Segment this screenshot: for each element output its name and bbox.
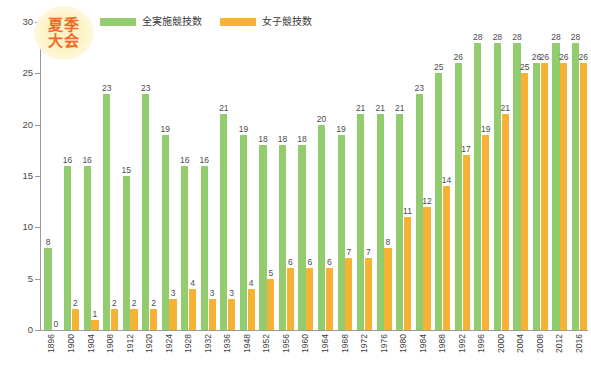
bar-women-events: 1 bbox=[91, 320, 98, 330]
bar-group: 213 bbox=[220, 20, 235, 330]
bar-all-events: 28 bbox=[572, 43, 579, 330]
bar-group: 193 bbox=[162, 20, 177, 330]
bar-value-label: 25 bbox=[520, 63, 529, 72]
y-tick-label: 20 bbox=[0, 120, 33, 130]
bar-women-events: 6 bbox=[306, 268, 313, 330]
bar-women-events: 11 bbox=[404, 217, 411, 330]
bar-all-events: 20 bbox=[318, 125, 325, 330]
summer-games-events-bar-chart: 051015202530 夏季 大会 全実施競技数 女子競技数 80162161… bbox=[0, 0, 591, 368]
bar-group: 185 bbox=[259, 20, 274, 330]
x-tick-label: 1996 bbox=[477, 334, 486, 353]
bar-women-events: 4 bbox=[248, 289, 255, 330]
bar-value-label: 15 bbox=[121, 166, 130, 175]
bar-women-events: 4 bbox=[189, 289, 196, 330]
x-tick-label: 2004 bbox=[516, 334, 525, 353]
x-tick-label: 1928 bbox=[184, 334, 193, 353]
bar-women-events: 6 bbox=[326, 268, 333, 330]
bar-value-label: 12 bbox=[422, 197, 431, 206]
bar-value-label: 14 bbox=[442, 176, 451, 185]
x-tick-label: 1920 bbox=[145, 334, 154, 353]
bar-value-label: 28 bbox=[473, 33, 482, 42]
bar-all-events: 15 bbox=[123, 176, 130, 330]
bar-value-label: 8 bbox=[386, 238, 391, 247]
bar-value-label: 26 bbox=[579, 53, 588, 62]
bar-women-events: 8 bbox=[384, 248, 391, 330]
bar-all-events: 28 bbox=[474, 43, 481, 330]
bar-value-label: 6 bbox=[307, 258, 312, 267]
y-tick-mark bbox=[35, 279, 40, 280]
badge-line-1: 夏季 bbox=[48, 17, 80, 33]
bar-women-events: 3 bbox=[169, 299, 176, 330]
bar-value-label: 2 bbox=[73, 299, 78, 308]
x-tick-label: 1948 bbox=[243, 334, 252, 353]
x-tick-label: 1936 bbox=[223, 334, 232, 353]
bar-group: 232 bbox=[103, 20, 118, 330]
green-swatch-icon bbox=[100, 18, 136, 26]
x-tick-label: 1976 bbox=[380, 334, 389, 353]
bar-value-label: 8 bbox=[46, 238, 51, 247]
bar-value-label: 3 bbox=[229, 289, 234, 298]
bar-all-events: 16 bbox=[84, 166, 91, 330]
bar-value-label: 6 bbox=[327, 258, 332, 267]
bar-value-label: 23 bbox=[102, 84, 111, 93]
x-tick-label: 1904 bbox=[87, 334, 96, 353]
bar-group: 2825 bbox=[513, 20, 528, 330]
bar-women-events: 26 bbox=[560, 63, 567, 330]
bar-group: 194 bbox=[240, 20, 255, 330]
bar-group: 197 bbox=[338, 20, 353, 330]
bar-value-label: 7 bbox=[366, 248, 371, 257]
bar-women-events: 3 bbox=[209, 299, 216, 330]
bar-all-events: 21 bbox=[220, 114, 227, 330]
bar-women-events: 7 bbox=[345, 258, 352, 330]
bar-all-events: 21 bbox=[357, 114, 364, 330]
bar-all-events: 28 bbox=[552, 43, 559, 330]
bar-all-events: 19 bbox=[338, 135, 345, 330]
bar-all-events: 25 bbox=[435, 73, 442, 330]
bar-group: 218 bbox=[377, 20, 392, 330]
bar-value-label: 18 bbox=[278, 135, 287, 144]
x-tick-label: 1912 bbox=[126, 334, 135, 353]
bar-group: 2617 bbox=[455, 20, 470, 330]
bar-all-events: 19 bbox=[162, 135, 169, 330]
plot-area: 8016216123215223219316416321319418518618… bbox=[41, 20, 588, 330]
y-tick-mark bbox=[35, 176, 40, 177]
bar-group: 186 bbox=[298, 20, 313, 330]
bar-all-events: 28 bbox=[494, 43, 501, 330]
bar-value-label: 2 bbox=[151, 299, 156, 308]
y-tick-mark bbox=[35, 227, 40, 228]
bar-women-events: 25 bbox=[521, 73, 528, 330]
bar-value-label: 21 bbox=[219, 104, 228, 113]
bar-group: 206 bbox=[318, 20, 333, 330]
bar-group: 232 bbox=[142, 20, 157, 330]
x-tick-label: 1952 bbox=[262, 334, 271, 353]
bar-all-events: 8 bbox=[44, 248, 51, 330]
y-tick-label: 30 bbox=[0, 17, 33, 27]
x-tick-label: 1972 bbox=[360, 334, 369, 353]
bar-value-label: 19 bbox=[336, 125, 345, 134]
bar-group: 163 bbox=[201, 20, 216, 330]
y-tick-label-text: 15 bbox=[3, 171, 33, 181]
bar-women-events: 14 bbox=[443, 186, 450, 330]
x-tick-label: 1896 bbox=[47, 334, 56, 353]
bar-women-events: 2 bbox=[130, 309, 137, 330]
x-tick-label: 1980 bbox=[399, 334, 408, 353]
bar-value-label: 3 bbox=[210, 289, 215, 298]
bar-all-events: 23 bbox=[416, 94, 423, 330]
bar-all-events: 19 bbox=[240, 135, 247, 330]
bar-all-events: 21 bbox=[377, 114, 384, 330]
bar-value-label: 26 bbox=[540, 53, 549, 62]
bar-women-events: 26 bbox=[580, 63, 587, 330]
bar-all-events: 16 bbox=[64, 166, 71, 330]
bar-value-label: 4 bbox=[190, 279, 195, 288]
bar-group: 2626 bbox=[533, 20, 548, 330]
x-tick-label: 2008 bbox=[536, 334, 545, 353]
bar-value-label: 25 bbox=[434, 63, 443, 72]
y-tick-mark bbox=[35, 73, 40, 74]
bar-group: 152 bbox=[123, 20, 138, 330]
y-tick-label-text: 10 bbox=[3, 222, 33, 232]
bar-group: 161 bbox=[84, 20, 99, 330]
y-tick-label: 5 bbox=[0, 274, 33, 284]
bar-women-events: 6 bbox=[287, 268, 294, 330]
x-tick-label: 1988 bbox=[438, 334, 447, 353]
bar-women-events: 5 bbox=[267, 279, 274, 330]
